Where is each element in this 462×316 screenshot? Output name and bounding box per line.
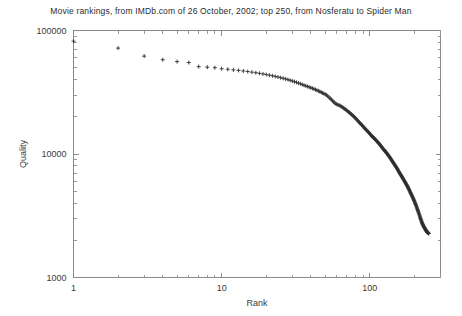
x-tick-label: 1	[71, 283, 76, 293]
y-axis-title: Quality	[18, 139, 28, 168]
y-tick-label: 10000	[41, 149, 66, 159]
data-series	[72, 39, 431, 235]
chart-plot: 110100100010000100000RankQuality	[0, 0, 462, 316]
x-axis-title: Rank	[246, 298, 268, 308]
y-tick-label: 100000	[36, 26, 66, 36]
y-tick-label: 1000	[46, 273, 66, 283]
data-point-markers	[72, 39, 431, 235]
x-tick-label: 100	[362, 283, 377, 293]
x-tick-label: 10	[217, 283, 227, 293]
chart-page: Movie rankings, from IMDb.com of 26 Octo…	[0, 0, 462, 316]
